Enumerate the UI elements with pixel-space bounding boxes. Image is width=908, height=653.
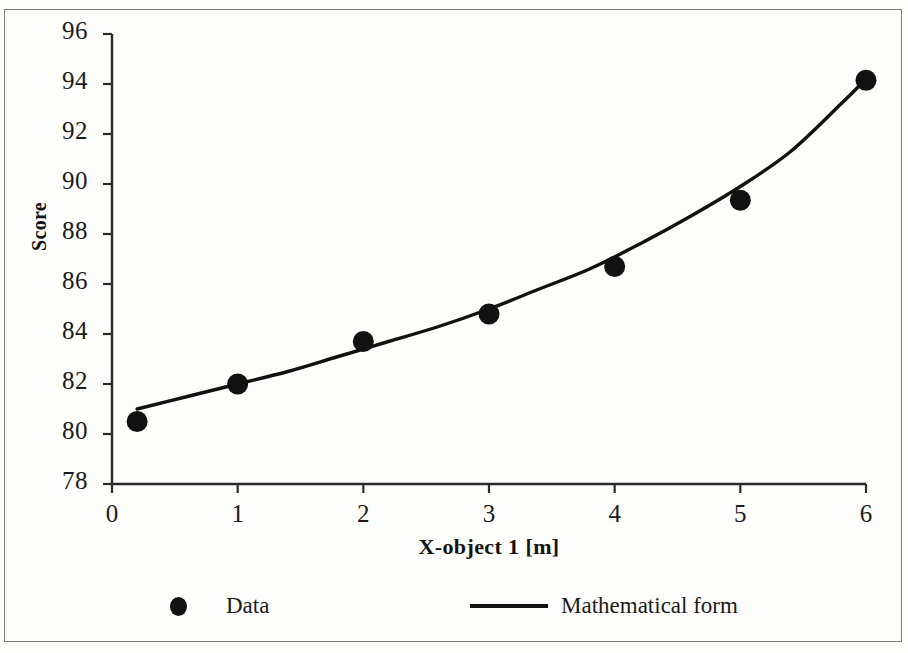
y-tick-label: 82	[28, 367, 88, 395]
y-tick-label: 88	[28, 217, 88, 245]
data-point	[604, 256, 625, 277]
fit-curve-layer	[137, 79, 866, 409]
x-tick-label: 6	[846, 500, 886, 528]
legend-entry-data: Data	[170, 593, 470, 619]
x-tick-label: 4	[595, 500, 635, 528]
data-point	[227, 374, 248, 395]
chart-figure: Score X-object 1 [m] 9694929088868482807…	[0, 0, 908, 653]
y-tick-label: 90	[28, 167, 88, 195]
plot-area: Score X-object 1 [m] 9694929088868482807…	[0, 0, 908, 653]
data-points-layer	[127, 70, 877, 432]
legend-entry-mathematical-form: Mathematical form	[470, 593, 738, 619]
x-tick-label: 0	[92, 500, 132, 528]
y-tick-label: 96	[28, 17, 88, 45]
legend-line-icon	[470, 604, 548, 608]
data-point	[479, 304, 500, 325]
x-axis-title: X-object 1 [m]	[254, 534, 724, 560]
x-tick-label: 3	[469, 500, 509, 528]
y-tick-label: 84	[28, 317, 88, 345]
y-tick-label: 92	[28, 117, 88, 145]
axis-layer	[103, 34, 866, 493]
y-tick-label: 78	[28, 467, 88, 495]
chart-legend: Data Mathematical form	[170, 588, 810, 624]
data-point	[730, 190, 751, 211]
x-tick-label: 5	[720, 500, 760, 528]
data-point	[353, 331, 374, 352]
data-point	[127, 411, 148, 432]
y-tick-label: 80	[28, 417, 88, 445]
x-tick-label: 1	[218, 500, 258, 528]
y-tick-label: 86	[28, 267, 88, 295]
x-tick-label: 2	[343, 500, 383, 528]
legend-dot-icon	[170, 597, 187, 616]
legend-label-mathematical-form: Mathematical form	[561, 593, 738, 619]
data-point	[856, 70, 877, 91]
legend-label-data: Data	[226, 593, 269, 619]
y-tick-label: 94	[28, 67, 88, 95]
